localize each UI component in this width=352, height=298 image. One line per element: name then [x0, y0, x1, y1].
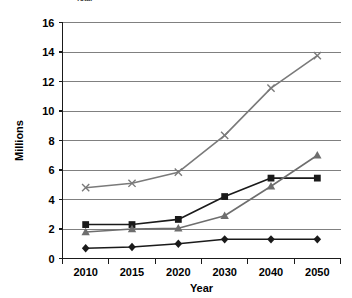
- x-tick-label: 2040: [259, 266, 283, 278]
- series-triangle: [81, 151, 321, 235]
- triangle-marker: [313, 151, 321, 158]
- triangle-marker: [220, 212, 228, 219]
- chart-container: Total 0246810121416 20102015202020302040…: [0, 0, 352, 298]
- y-tick-label: 12: [42, 76, 54, 88]
- y-tick-label: 8: [48, 135, 54, 147]
- square-marker: [268, 175, 275, 182]
- series-diamond: [82, 235, 321, 252]
- x-tick-label: 2050: [305, 266, 329, 278]
- series-line: [86, 56, 318, 188]
- diamond-marker: [221, 235, 229, 243]
- gridlines-group: [63, 23, 341, 230]
- triangle-marker: [267, 182, 275, 189]
- line-chart-plot: 0246810121416 201020152020203020402050 M…: [0, 0, 352, 298]
- y-tick-label: 14: [42, 46, 55, 58]
- square-marker: [314, 175, 321, 182]
- square-marker: [82, 221, 89, 228]
- x-marker: [221, 132, 228, 139]
- x-tick-labels-group: 201020152020203020402050: [73, 266, 329, 278]
- x-tick-label: 2010: [73, 266, 97, 278]
- x-axis-title: Year: [190, 282, 214, 294]
- y-tick-label: 2: [48, 223, 54, 235]
- square-marker: [221, 193, 228, 200]
- y-tick-label: 10: [42, 105, 54, 117]
- series-line: [86, 239, 318, 248]
- y-tick-labels-group: 0246810121416: [42, 17, 55, 265]
- x-tick-label: 2020: [166, 266, 190, 278]
- series-line: [86, 155, 318, 232]
- series-square: [82, 175, 320, 228]
- y-tick-label: 0: [48, 253, 54, 265]
- y-tick-label: 16: [42, 17, 54, 29]
- diamond-marker: [128, 243, 136, 251]
- diamond-marker: [175, 240, 183, 248]
- y-axis-title: Millions: [13, 120, 25, 161]
- square-marker: [175, 216, 182, 223]
- x-tick-label: 2030: [212, 266, 236, 278]
- x-tick-label: 2015: [120, 266, 144, 278]
- diamond-marker: [314, 235, 322, 243]
- x-marker: [314, 52, 321, 59]
- x-tick-marks-group: [63, 259, 341, 264]
- diamond-marker: [82, 244, 90, 252]
- y-tick-label: 6: [48, 164, 54, 176]
- data-series-group: [81, 52, 321, 252]
- x-marker: [267, 85, 274, 92]
- diamond-marker: [267, 235, 275, 243]
- y-tick-label: 4: [48, 194, 55, 206]
